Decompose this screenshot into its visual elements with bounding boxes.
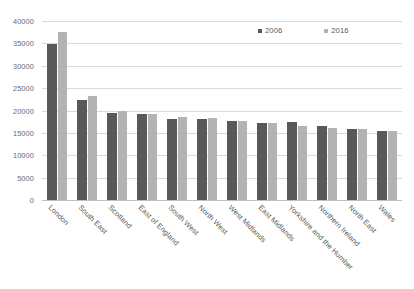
- x-tick-label: Scotland: [107, 203, 134, 230]
- bar-group: [132, 21, 162, 200]
- bar[interactable]: [47, 44, 57, 200]
- bar-group: [282, 21, 312, 200]
- bar-group: [72, 21, 102, 200]
- x-tick-label: North West: [197, 203, 230, 236]
- bar[interactable]: [287, 122, 297, 200]
- bar[interactable]: [197, 119, 207, 200]
- legend-item-2006[interactable]: 2006: [258, 26, 282, 35]
- x-axis: LondonSouth EastScotlandEast of EnglandS…: [42, 203, 402, 289]
- bar[interactable]: [118, 111, 128, 200]
- y-tick-label-0: 0: [30, 196, 34, 205]
- legend-swatch-2016-icon: [324, 29, 328, 33]
- y-tick-label-15000: 15000: [13, 128, 34, 137]
- bar[interactable]: [227, 121, 237, 200]
- bar[interactable]: [377, 131, 387, 200]
- bar[interactable]: [107, 113, 117, 200]
- bar-group: [192, 21, 222, 200]
- bar-group: [372, 21, 402, 200]
- bar[interactable]: [88, 96, 98, 200]
- x-tick-label: South East: [77, 203, 110, 236]
- bar[interactable]: [257, 123, 267, 200]
- bar[interactable]: [178, 117, 188, 200]
- bar[interactable]: [148, 114, 158, 200]
- bar[interactable]: [137, 114, 147, 200]
- bar-group: [42, 21, 72, 200]
- bar[interactable]: [268, 123, 278, 200]
- chart-legend: 2006 2016: [258, 26, 349, 35]
- bar-group: [222, 21, 252, 200]
- legend-label-2016: 2016: [331, 26, 348, 35]
- bar-group: [342, 21, 372, 200]
- bar-group: [102, 21, 132, 200]
- bar[interactable]: [317, 126, 327, 200]
- bar[interactable]: [208, 118, 218, 200]
- bar[interactable]: [58, 32, 68, 200]
- bar-group: [252, 21, 282, 200]
- bars-layer: [42, 21, 402, 200]
- x-tick-label: London: [47, 203, 71, 227]
- y-tick-label-5000: 5000: [17, 173, 34, 182]
- bar[interactable]: [328, 128, 338, 200]
- bar[interactable]: [167, 119, 177, 200]
- bar[interactable]: [347, 129, 357, 200]
- bar[interactable]: [358, 129, 368, 200]
- y-tick-label-10000: 10000: [13, 151, 34, 160]
- y-tick-label-40000: 40000: [13, 17, 34, 26]
- legend-label-2006: 2006: [265, 26, 282, 35]
- bar[interactable]: [388, 131, 398, 200]
- bar-chart: 0500010000150002000025000300003500040000…: [0, 0, 414, 289]
- y-axis: 0500010000150002000025000300003500040000: [0, 0, 38, 289]
- bar[interactable]: [298, 126, 308, 200]
- y-tick-label-35000: 35000: [13, 39, 34, 48]
- y-tick-label-25000: 25000: [13, 84, 34, 93]
- legend-swatch-2006-icon: [258, 29, 262, 33]
- y-tick-label-30000: 30000: [13, 61, 34, 70]
- gridline-0: [42, 200, 402, 201]
- x-tick-label: Wales: [377, 203, 398, 224]
- bar-group: [312, 21, 342, 200]
- bar[interactable]: [77, 100, 87, 200]
- legend-item-2016[interactable]: 2016: [324, 26, 348, 35]
- y-tick-label-20000: 20000: [13, 106, 34, 115]
- x-tick-label: North East: [347, 203, 379, 235]
- bar[interactable]: [238, 121, 248, 200]
- bar-group: [162, 21, 192, 200]
